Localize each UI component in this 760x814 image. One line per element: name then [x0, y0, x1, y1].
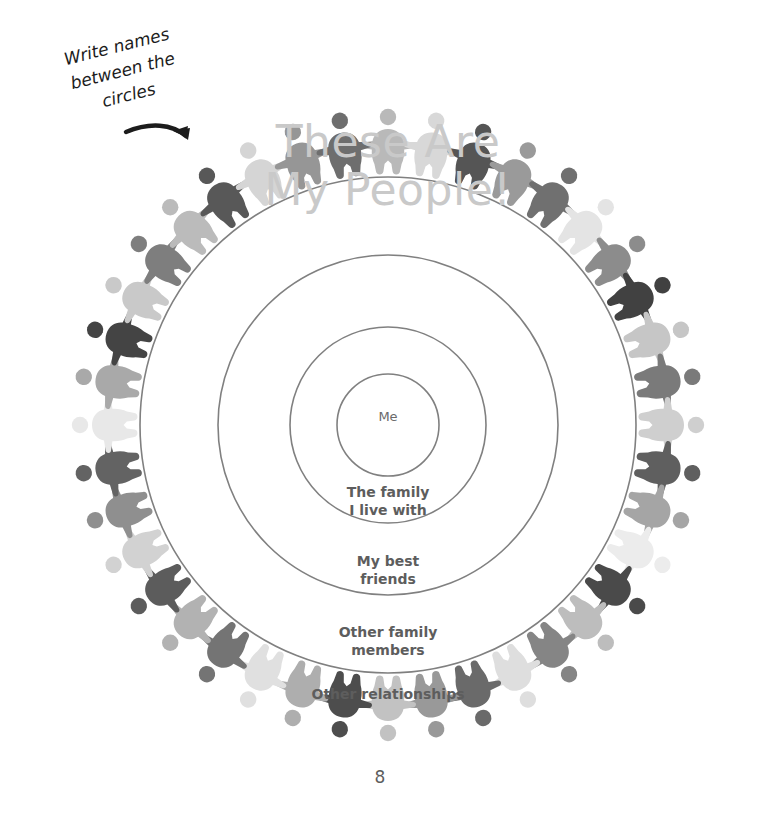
page-number: 8: [350, 767, 410, 787]
ring-label-family: The family I live with: [308, 483, 468, 519]
ring-label-other-family-members: Other family members: [298, 623, 478, 659]
ring-label-me: Me: [338, 409, 438, 425]
worksheet-page: These Are My People! Me The family I liv…: [0, 0, 760, 814]
ring-label-best-friends: My best friends: [308, 552, 468, 588]
ring-label-other-relationships: Other relationships: [268, 685, 508, 703]
diagram-stage: These Are My People! Me The family I liv…: [0, 0, 760, 814]
